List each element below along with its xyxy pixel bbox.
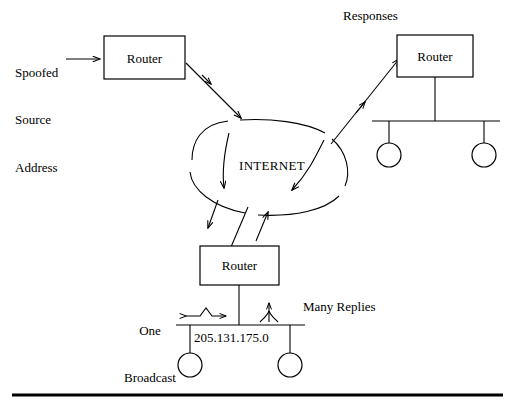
- arrow-down-icon: [223, 133, 229, 188]
- amplifier-host-2: [278, 353, 302, 377]
- one-broadcast-line-2: Broadcast: [104, 370, 196, 386]
- victim-host-2: [472, 143, 496, 167]
- spoofed-source-address-label: Spoofed Source Address: [15, 33, 58, 207]
- arrow-up-converging-icon: [260, 303, 278, 322]
- router-victim-label: Router: [417, 49, 453, 64]
- arrow-up-icon: [256, 212, 268, 241]
- router-victim-node: Router: [397, 35, 473, 77]
- network-attack-diagram: Router INTERNET: [0, 0, 515, 403]
- subnet-address-label: 205.131.175.0: [194, 330, 269, 346]
- router-attacker-node: Router: [104, 36, 185, 79]
- cloud-amplifier-link: [231, 207, 248, 247]
- arrow-down-right-icon: [186, 63, 241, 118]
- one-broadcast-line-1: One: [104, 323, 196, 339]
- router-amplifier-label: Router: [222, 258, 258, 273]
- many-replies-label: Many Replies: [303, 299, 376, 315]
- victim-host-1: [377, 143, 401, 167]
- spoofed-line-2: Source: [15, 112, 58, 128]
- router-attacker-label: Router: [127, 51, 163, 66]
- arrow-down-icon-to-amplifier: [208, 200, 218, 228]
- internet-cloud: INTERNET: [190, 120, 348, 216]
- responses-label: Responses: [343, 8, 398, 24]
- internet-cloud-label: INTERNET: [239, 158, 305, 173]
- spoofed-line-1: Spoofed: [15, 65, 58, 81]
- spoofed-line-3: Address: [15, 160, 58, 176]
- router-amplifier-node: Router: [200, 246, 279, 285]
- one-broadcast-label: One Broadcast: [104, 291, 196, 403]
